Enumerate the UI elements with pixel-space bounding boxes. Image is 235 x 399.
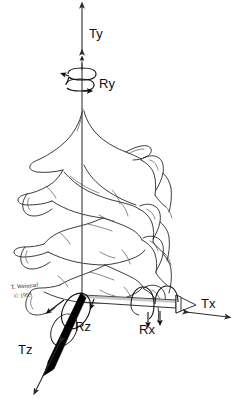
signature-copyright: © 1993: [14, 291, 33, 299]
tx-translation-arrow: [186, 312, 228, 317]
label-ty: Ty: [89, 26, 103, 41]
tz-translation-arrow: [35, 340, 61, 392]
ry-rotation-arrow: [63, 58, 96, 91]
label-tx: Tx: [201, 296, 216, 311]
spine-degrees-of-freedom-figure: Ty Ry Tx Rx Tz Rz T. Weinzarl © 1993: [0, 0, 235, 399]
vertebrae-illustration: [14, 109, 172, 322]
label-ry: Ry: [99, 76, 115, 91]
x-axis-3d-arrow: [82, 295, 196, 313]
label-rx: Rx: [139, 322, 155, 337]
label-rz: Rz: [75, 319, 91, 334]
artist-signature: T. Weinzarl © 1993: [11, 282, 39, 299]
label-tz: Tz: [18, 342, 32, 357]
